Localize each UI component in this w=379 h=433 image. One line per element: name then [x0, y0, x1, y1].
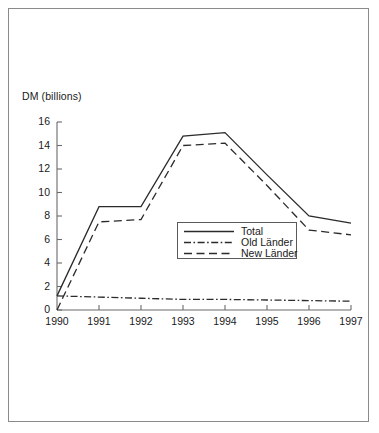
- y-tick-label: 14: [24, 139, 50, 151]
- x-tick-label: 1993: [160, 315, 206, 327]
- legend-swatch-old-laender: [183, 237, 235, 248]
- legend-swatch-total: [183, 226, 235, 237]
- x-tick-label: 1991: [76, 315, 122, 327]
- y-tick-label: 4: [24, 256, 50, 268]
- x-tick-label: 1995: [244, 315, 290, 327]
- legend-label-new-laender: New Länder: [241, 247, 298, 259]
- chart-figure: DM (billions) 0246810121416 199019911992…: [0, 0, 379, 433]
- x-tick-label: 1990: [34, 315, 80, 327]
- y-axis-ticks: [57, 122, 62, 310]
- x-tick-label: 1992: [118, 315, 164, 327]
- plot-area: [0, 0, 379, 433]
- y-tick-label: 0: [24, 303, 50, 315]
- y-tick-label: 12: [24, 162, 50, 174]
- axes: [57, 122, 351, 310]
- y-tick-label: 10: [24, 186, 50, 198]
- chart-legend: Total Old Länder New Länder: [177, 222, 297, 259]
- y-tick-label: 16: [24, 115, 50, 127]
- legend-swatch-new-laender: [183, 248, 235, 259]
- x-tick-label: 1997: [328, 315, 374, 327]
- series-line-total: [57, 133, 351, 296]
- x-tick-label: 1996: [286, 315, 332, 327]
- y-tick-label: 8: [24, 209, 50, 221]
- x-axis-ticks: [99, 305, 351, 310]
- y-tick-label: 6: [24, 233, 50, 245]
- series-line-old-l-nder: [57, 296, 351, 301]
- x-tick-label: 1994: [202, 315, 248, 327]
- y-tick-label: 2: [24, 280, 50, 292]
